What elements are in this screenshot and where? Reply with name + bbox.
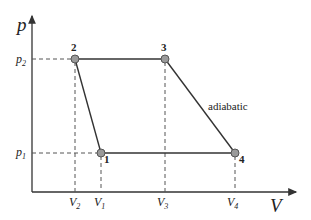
tick-V1: V1 [94,195,105,211]
tick-V2: V2 [69,195,80,211]
point-label-4: 4 [239,153,245,165]
point-4 [231,149,239,157]
point-label-3: 3 [161,41,167,53]
pv-diagram: 2 3 1 4 adiabatic p V p2 p1 V2 V1 V3 V4 [0,0,311,220]
y-axis-label: p [15,14,27,35]
point-2 [71,55,79,63]
tick-V3: V3 [157,195,168,211]
adiabatic-label: adiabatic [208,100,248,112]
tick-V4: V4 [227,195,238,211]
point-label-1: 1 [104,153,110,165]
x-axis-label: V [270,195,284,216]
point-3 [161,55,169,63]
dashed-guides [32,59,235,192]
tick-p2: p2 [15,52,26,68]
tick-p1: p1 [15,145,26,161]
point-label-2: 2 [71,41,77,53]
